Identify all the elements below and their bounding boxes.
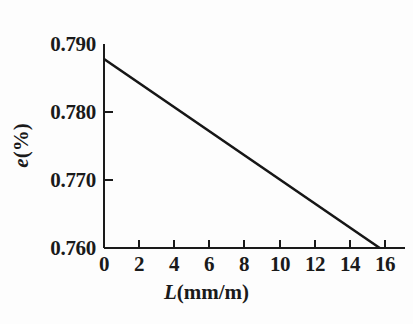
x-tick-label-16: 16 bbox=[365, 254, 405, 275]
x-tick-label-4: 4 bbox=[154, 254, 194, 275]
x-axis-title-unit: (mm/m) bbox=[177, 280, 249, 304]
x-tick-label-2: 2 bbox=[119, 254, 159, 275]
y-axis-title-unit: (%) bbox=[9, 123, 33, 158]
x-axis-title: L(mm/m) bbox=[0, 282, 413, 303]
x-tick-label-12: 12 bbox=[295, 254, 335, 275]
x-tick-label-0: 0 bbox=[84, 254, 124, 275]
y-axis-ticks bbox=[104, 112, 113, 180]
x-tick-label-6: 6 bbox=[189, 254, 229, 275]
data-line-series-0 bbox=[104, 59, 380, 248]
x-tick-label-10: 10 bbox=[260, 254, 300, 275]
x-tick-label-8: 8 bbox=[224, 254, 264, 275]
y-tick-label-0790: 0.790 bbox=[10, 34, 96, 55]
chart-figure: 0.790 0.780 0.770 0.760 0 2 4 6 8 10 12 … bbox=[0, 0, 413, 324]
y-axis-title-symbol: e bbox=[9, 158, 33, 167]
x-tick-label-14: 14 bbox=[330, 254, 370, 275]
x-axis-title-symbol: L bbox=[164, 280, 177, 304]
x-axis-ticks bbox=[139, 240, 385, 248]
y-axis-title: e(%) bbox=[11, 101, 32, 191]
